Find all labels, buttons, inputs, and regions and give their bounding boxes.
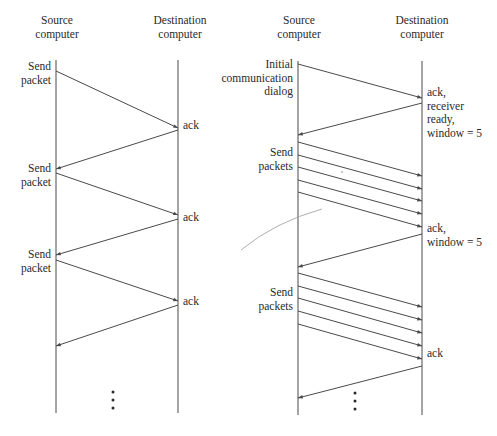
destination-event-label: ack — [183, 295, 199, 309]
destination-event-label: ack, window = 5 — [427, 222, 482, 249]
source-event-label: Send packets — [259, 286, 293, 313]
destination-event-label: ack — [183, 119, 199, 133]
ack-arrow — [56, 305, 178, 346]
right-destination-header: Destination computer — [384, 14, 460, 41]
source-event-label: Initial communication dialog — [221, 58, 293, 99]
ack-arrow — [56, 130, 178, 169]
source-event-label: Send packet — [21, 162, 51, 189]
ack-arrow — [298, 366, 422, 398]
left-destination-header: Destination computer — [142, 14, 218, 41]
packet-arrow — [298, 324, 422, 359]
packet-arrow — [298, 273, 422, 307]
stray-marks — [241, 171, 342, 250]
sliding-window-diagram — [298, 61, 422, 415]
ack-arrow — [298, 103, 422, 135]
flow-control-diagram: Source computer Destination computer Sou… — [0, 0, 497, 436]
destination-event-label: ack, receiver ready, window = 5 — [427, 86, 482, 140]
stop-and-wait-diagram — [56, 60, 178, 413]
destination-event-label: ack — [183, 211, 199, 225]
ellipsis-dot — [354, 392, 357, 395]
stray-pen-curve — [241, 209, 322, 250]
packet-arrow — [56, 71, 178, 128]
packet-arrow — [56, 173, 178, 215]
right-source-header: Source computer — [264, 14, 334, 41]
packet-arrow — [56, 260, 178, 301]
ellipsis-dot — [112, 391, 115, 394]
destination-event-label: ack — [427, 347, 443, 361]
packet-arrow — [298, 142, 422, 176]
left-source-header: Source computer — [22, 14, 92, 41]
packet-arrow — [298, 64, 422, 98]
ellipsis-dot — [354, 408, 357, 411]
source-event-label: Send packet — [21, 60, 51, 87]
ack-arrow — [56, 219, 178, 255]
ellipsis-dot — [112, 407, 115, 410]
source-event-label: Send packet — [21, 248, 51, 275]
ellipsis-dot — [112, 399, 115, 402]
source-event-label: Send packets — [259, 146, 293, 173]
packet-arrow — [298, 311, 422, 346]
ellipsis-dot — [354, 400, 357, 403]
ack-arrow — [298, 234, 422, 267]
